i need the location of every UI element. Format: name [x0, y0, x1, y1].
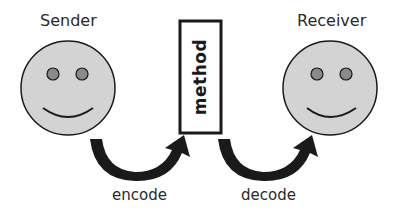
method-label: method — [190, 39, 210, 115]
receiver-label: Receiver — [297, 11, 366, 30]
receiver-face-icon — [283, 41, 377, 135]
decode-arrow-icon — [218, 135, 318, 181]
sender-face-icon — [21, 41, 115, 135]
encode-label: encode — [112, 186, 167, 204]
encode-arrow-icon — [90, 135, 190, 181]
sender-label: Sender — [40, 11, 97, 30]
decode-label: decode — [241, 186, 296, 204]
